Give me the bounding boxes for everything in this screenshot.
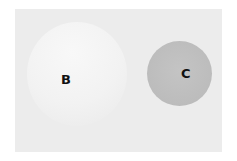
circle-c-label: C [181,66,191,81]
circle-c [147,41,212,106]
circle-b [27,22,127,126]
circle-b-label: B [61,72,71,87]
